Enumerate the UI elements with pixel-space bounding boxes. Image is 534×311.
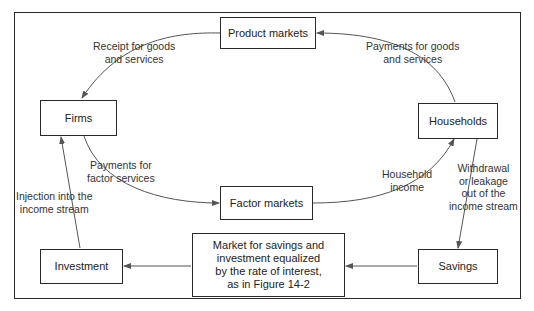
firms-box: Firms <box>40 100 117 136</box>
factor-markets-label: Factor markets <box>230 197 303 210</box>
label-receipt-for-goods: Receipt for goods and services <box>93 40 175 65</box>
label-injection: Injection into the income stream <box>16 190 92 215</box>
firms-label: Firms <box>65 112 93 125</box>
investment-label: Investment <box>55 260 109 273</box>
label-withdrawal: Withdrawal or leakage out of the income … <box>449 162 518 212</box>
savings-label: Savings <box>438 260 477 273</box>
savings-market-box: Market for savings and investment equali… <box>192 233 345 297</box>
households-label: Households <box>429 115 487 128</box>
savings-market-line: by the rate of interest, <box>215 265 321 278</box>
product-markets-label: Product markets <box>228 27 308 40</box>
savings-market-line: as in Figure 14-2 <box>227 278 310 291</box>
savings-box: Savings <box>418 249 498 284</box>
label-household-income: Household income <box>382 168 432 193</box>
savings-market-line: investment equalized <box>217 252 320 265</box>
factor-markets-box: Factor markets <box>220 186 313 220</box>
households-box: Households <box>418 103 498 139</box>
savings-market-line: Market for savings and <box>213 239 324 252</box>
investment-box: Investment <box>40 249 123 284</box>
product-markets-box: Product markets <box>220 17 316 49</box>
label-payments-for-factor: Payments for factor services <box>87 159 155 184</box>
label-payments-for-goods: Payments for goods and services <box>366 40 459 65</box>
